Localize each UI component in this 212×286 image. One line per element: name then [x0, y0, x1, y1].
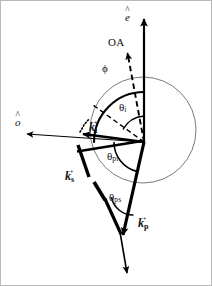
e-hat-accent: ^: [125, 6, 129, 15]
k-p-continuation-arrow: [120, 232, 127, 273]
k-p-vector-accent: →: [138, 212, 144, 222]
theta-ps-label: θps: [109, 192, 121, 204]
o-hat-accent: ^: [16, 111, 20, 120]
k-s-label: → ks: [65, 170, 74, 184]
optic-axis-label: OA: [108, 37, 125, 48]
theta-ps-sub: ps: [114, 195, 121, 204]
theta-i-sub: i: [124, 105, 126, 114]
theta-i-label: θi: [119, 102, 127, 114]
diagram-canvas: [1, 1, 212, 286]
k-i-vector-accent: →: [89, 116, 95, 126]
k-i-sub: i: [95, 126, 97, 135]
k-s-sub: s: [71, 175, 74, 184]
k-i-dotted-hook: [80, 119, 89, 132]
k-p-sub: p: [144, 222, 148, 231]
theta-pi-sub: pi: [112, 154, 118, 163]
theta-pi-label: θpi: [107, 151, 119, 163]
o-hat-label: ^ o: [15, 117, 21, 128]
e-hat-label: ^ e: [125, 12, 130, 23]
k-p-label: → kp: [138, 217, 148, 231]
k-s-vector-segment-3: [94, 182, 105, 200]
k-i-label: → ki: [89, 121, 97, 135]
vector-diagram-figure: ^ e OA ϕ θi ^ o → ki θpi → ks θps → kp: [0, 0, 212, 286]
k-s-vector-accent: →: [65, 165, 71, 175]
phi-label: ϕ: [102, 63, 108, 74]
optic-axis-vector: [128, 53, 145, 142]
